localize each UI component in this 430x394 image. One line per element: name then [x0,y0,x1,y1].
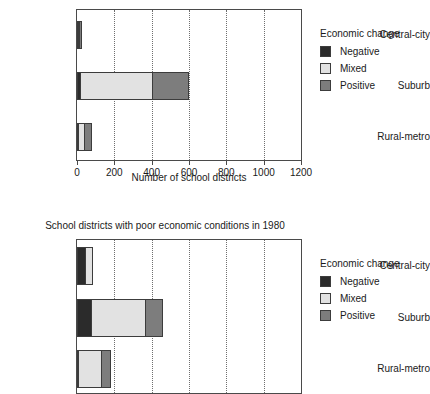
stacked-bar [77,247,93,285]
chart-2-title: School districts with poor economic cond… [0,220,330,231]
bar-segment-positive [84,123,92,151]
x-tick-600 [189,161,190,165]
legend-item-mixed: Mixed [320,63,400,74]
bar-segment-positive [145,299,163,337]
x-tick-1200 [301,161,302,165]
chart-1-legend: Economic change Negative Mixed Positive [320,28,400,97]
legend-label-negative: Negative [340,276,379,287]
legend-swatch-positive [320,80,331,91]
x-tick-400 [152,161,153,165]
bar-suburb [77,299,301,337]
stacked-bar [77,299,163,337]
stacked-bar [77,350,111,388]
legend-label-positive: Positive [340,80,375,91]
chart-1-x-axis-title: Number of school districts [76,172,302,183]
bar-segment-positive [79,21,82,49]
stacked-bar [77,123,92,151]
legend-item-positive: Positive [320,80,400,91]
bar-segment-negative [77,299,91,337]
chart-2-legend: Economic change Negative Mixed Positive [320,258,400,327]
legend-swatch-positive [320,310,331,321]
legend-label-positive: Positive [340,310,375,321]
legend-item-negative: Negative [320,46,400,57]
bar-segment-mixed [85,247,92,285]
bar-rural-metro [77,123,301,151]
bar-segment-mixed [91,299,145,337]
legend-swatch-mixed [320,293,331,304]
x-tick-200 [114,161,115,165]
legend-swatch-negative [320,46,331,57]
bar-segment-mixed [80,72,152,100]
bar-central-city [77,21,301,49]
legend-label-negative: Negative [340,46,379,57]
legend-item-positive: Positive [320,310,400,321]
bar-central-city [77,247,301,285]
x-tick-0 [77,161,78,165]
bar-segment-mixed [78,350,101,388]
legend-label-mixed: Mixed [340,63,367,74]
bar-segment-positive [152,72,189,100]
legend-item-negative: Negative [320,276,400,287]
bar-segment-negative [77,247,85,285]
bar-suburb [77,72,301,100]
chart-2-plot-area [76,239,302,394]
x-tick-800 [226,161,227,165]
legend-title: Economic change [320,258,400,269]
bar-rural-metro [77,350,301,388]
chart-figure-1: Central-citySuburbRural-metro 0200400600… [0,0,430,196]
x-tick-1000 [264,161,265,165]
legend-title: Economic change [320,28,400,39]
chart-figure-2: School districts with poor economic cond… [0,196,430,394]
category-label-rural-metro: Rural-metro [360,130,430,141]
stacked-bar [77,72,189,100]
legend-swatch-negative [320,276,331,287]
category-label-rural-metro: Rural-metro [360,363,430,374]
chart-1-plot-area [76,9,302,161]
stacked-bar [77,21,82,49]
legend-item-mixed: Mixed [320,293,400,304]
legend-label-mixed: Mixed [340,293,367,304]
bar-segment-positive [101,350,110,388]
legend-swatch-mixed [320,63,331,74]
